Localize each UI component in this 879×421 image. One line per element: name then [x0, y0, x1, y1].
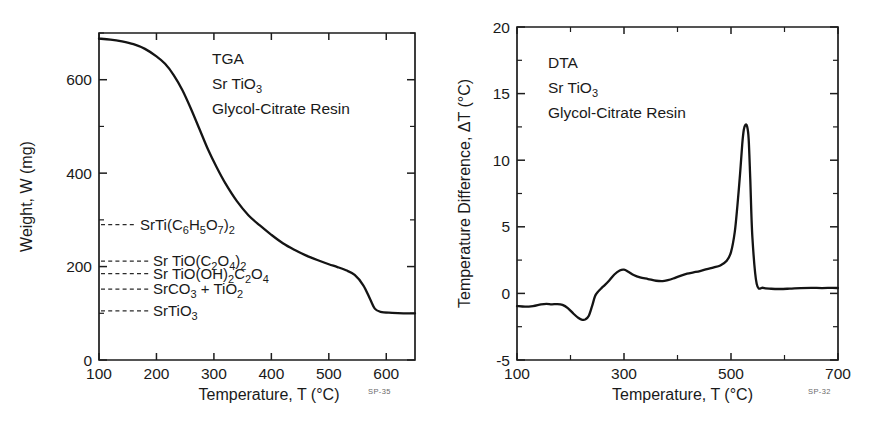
tga-corner-code: SP-35	[368, 387, 391, 396]
tga-panel: 100200300400500600 0200400600 SrTi(C6H5O…	[0, 0, 440, 421]
dta-y-axis-title: Temperature Difference, ΔT (°C)	[456, 79, 473, 308]
tga-x-axis-title: Temperature, T (°C)	[199, 386, 340, 403]
dta-x-axis-title: Temperature, T (°C)	[612, 386, 753, 403]
tga-x-tick-label: 600	[373, 365, 399, 382]
dta-y-tick-label: -5	[496, 352, 510, 369]
tga-species-label-carbonate-titania: SrCO3 + TiO2	[153, 280, 243, 300]
dta-y-tick-label: 20	[493, 19, 511, 36]
tga-species-leader-lines	[101, 225, 150, 311]
tga-x-tick-label: 200	[144, 365, 170, 382]
tga-species-label-citrate: SrTi(C6H5O7)2	[140, 216, 235, 236]
tga-x-tick-label: 500	[316, 365, 342, 382]
dta-annotation-line: Glycol-Citrate Resin	[548, 104, 686, 121]
dta-annotation-line: DTA	[548, 54, 579, 71]
dta-y-tick-label: 0	[501, 285, 510, 302]
tga-y-tick-label: 600	[66, 71, 92, 88]
dta-annotation-line: Sr TiO3	[548, 79, 598, 99]
tga-annotation-line: TGA	[212, 50, 245, 67]
dta-y-tick-label: 15	[493, 85, 510, 102]
dta-axis-frame	[517, 27, 838, 360]
dta-x-tick-label: 300	[611, 365, 637, 382]
tga-annotation-line: Glycol-Citrate Resin	[212, 100, 350, 117]
dta-y-tick-labels: -505101520	[493, 19, 511, 369]
tga-species-labels: SrTi(C6H5O7)2Sr TiO(C2O4)2Sr TiO(OH)2C2O…	[140, 216, 269, 322]
tga-y-tick-label: 200	[66, 258, 92, 275]
dta-x-tick-labels: 100300500700	[504, 365, 851, 382]
tga-species-label-strontium-titanate: SrTiO3	[153, 302, 198, 322]
tga-y-axis-title: Weight, W (mg)	[18, 141, 35, 252]
dta-tick-marks	[517, 27, 838, 360]
dta-x-tick-label: 700	[825, 365, 851, 382]
tga-plot-svg: 100200300400500600 0200400600 SrTi(C6H5O…	[0, 0, 440, 421]
dta-y-tick-label: 5	[501, 218, 510, 235]
tga-annotation-line: Sr TiO3	[212, 75, 262, 95]
tga-y-tick-label: 400	[66, 165, 92, 182]
dta-panel: 100300500700 -505101520 DTASr TiO3Glycol…	[440, 0, 879, 421]
figure-root: 100200300400500600 0200400600 SrTi(C6H5O…	[0, 0, 879, 421]
dta-corner-code: SP-32	[808, 387, 831, 396]
tga-x-tick-label: 300	[201, 365, 227, 382]
tga-x-tick-labels: 100200300400500600	[86, 365, 400, 382]
tga-x-tick-label: 400	[258, 365, 284, 382]
dta-annotation-block: DTASr TiO3Glycol-Citrate Resin	[548, 54, 686, 121]
dta-axes	[517, 27, 838, 360]
tga-annotation-block: TGASr TiO3Glycol-Citrate Resin	[212, 50, 350, 117]
tga-y-tick-label: 0	[83, 352, 92, 369]
dta-x-tick-label: 500	[718, 365, 744, 382]
dta-plot-svg: 100300500700 -505101520 DTASr TiO3Glycol…	[440, 0, 879, 421]
dta-delta-t-curve	[517, 124, 838, 319]
tga-y-tick-labels: 0200400600	[66, 71, 92, 368]
dta-y-tick-label: 10	[493, 152, 511, 169]
